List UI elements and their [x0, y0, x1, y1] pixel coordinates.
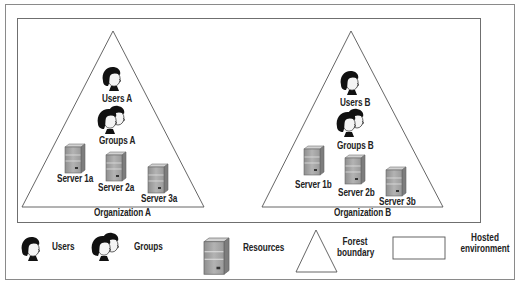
- server-1a-icon: [65, 144, 85, 173]
- server-2b-icon: [345, 155, 365, 184]
- legend-resources-label: Resources: [243, 242, 284, 253]
- organization-b-label: Organization B: [334, 207, 391, 218]
- users-a-label: Users A: [102, 93, 132, 104]
- users-a-icon: [103, 67, 121, 91]
- server-2a-label: Server 2a: [98, 182, 134, 193]
- legend-groups-label: Groups: [134, 241, 163, 252]
- server-3b-label: Server 3b: [379, 196, 416, 207]
- groups-b-label: Groups B: [337, 140, 374, 151]
- server-3a-icon: [148, 164, 168, 193]
- legend-users-label: Users: [52, 241, 74, 252]
- groups-a-label: Groups A: [99, 135, 135, 146]
- server-3b-icon: [386, 167, 406, 196]
- server-1b-label: Server 1b: [295, 179, 332, 190]
- server-3a-label: Server 3a: [141, 193, 177, 204]
- legend-forest-line2: boundary: [337, 247, 373, 258]
- server-1b-icon: [304, 146, 324, 175]
- server-2a-icon: [106, 152, 126, 181]
- server-1a-label: Server 1a: [57, 173, 93, 184]
- legend-groups-icon: [92, 233, 119, 261]
- legend-hosted-line2: environment: [460, 243, 511, 254]
- legend-resources-icon: [204, 238, 229, 274]
- users-b-label: Users B: [340, 97, 370, 108]
- legend-forest-label: Forest boundary: [337, 236, 373, 258]
- users-b-icon: [341, 71, 359, 95]
- legend-hosted-line1: Hosted: [460, 232, 511, 243]
- groups-b-icon: [337, 109, 364, 137]
- groups-a-icon: [98, 106, 125, 134]
- server-2b-label: Server 2b: [338, 187, 375, 198]
- legend-hosted-label: Hosted environment: [460, 232, 511, 254]
- organization-a-label: Organization A: [94, 207, 151, 218]
- legend-hosted-rect-icon: [393, 237, 445, 259]
- legend-forest-line1: Forest: [337, 236, 373, 247]
- legend-forest-triangle-icon: [296, 230, 337, 272]
- legend-users-icon: [22, 237, 40, 261]
